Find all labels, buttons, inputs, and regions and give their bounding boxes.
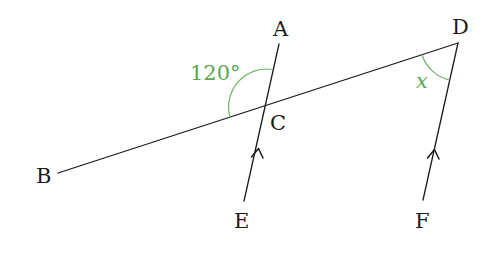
point-label-f: F: [415, 209, 430, 233]
line-bd: [58, 43, 458, 173]
point-label-d: D: [452, 15, 469, 39]
geometry-diagram: A B C D E F 120° x: [0, 0, 498, 253]
point-label-c: C: [270, 111, 286, 135]
parallel-arrow-icon: [252, 149, 264, 159]
angle-label-120: 120°: [190, 61, 241, 85]
point-label-b: B: [36, 164, 51, 188]
point-label-a: A: [272, 17, 289, 41]
point-label-e: E: [234, 209, 249, 233]
angle-label-x: x: [416, 69, 428, 93]
